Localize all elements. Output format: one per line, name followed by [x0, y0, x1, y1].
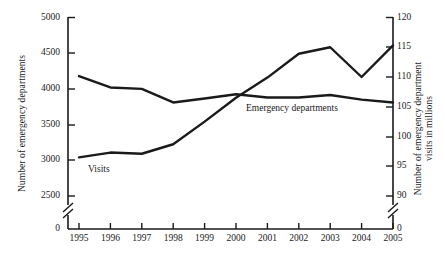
left-tick-label-4500: 4500	[26, 47, 60, 57]
left-tick-label-5000: 5000	[26, 12, 60, 22]
plot-area	[0, 0, 445, 260]
right-tick-label-115: 115	[397, 41, 431, 51]
series-annotation-visits: Visits	[88, 164, 110, 174]
left-axis-ticks	[68, 18, 75, 197]
left-tick-label-2500: 2500	[26, 190, 60, 200]
left-tick-label-0: 0	[26, 223, 60, 233]
x-axis-ticks	[79, 223, 393, 229]
right-tick-label-0: 0	[397, 223, 431, 233]
right-tick-label-120: 120	[397, 12, 431, 22]
left-tick-label-3500: 3500	[26, 119, 60, 129]
left-tick-label-4000: 4000	[26, 83, 60, 93]
right-tick-label-90: 90	[397, 190, 431, 200]
right-axis-ticks	[386, 18, 393, 197]
chart-figure: Number of emergency departments Number o…	[0, 0, 445, 260]
right-tick-label-105: 105	[397, 101, 431, 111]
right-tick-label-100: 100	[397, 131, 431, 141]
right-tick-label-95: 95	[397, 160, 431, 170]
series-annotation-emergency-departments: Emergency departments	[246, 103, 338, 113]
left-tick-label-3000: 3000	[26, 154, 60, 164]
right-tick-label-110: 110	[397, 71, 431, 81]
series-line-visits	[79, 45, 393, 157]
x-tick-label-2005: 2005	[373, 233, 413, 243]
